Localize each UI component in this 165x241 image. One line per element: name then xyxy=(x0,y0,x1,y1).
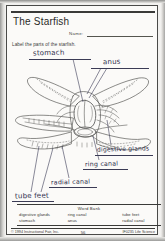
label-digestive-glands[interactable]: digestive glands xyxy=(97,144,150,152)
name-input-line[interactable] xyxy=(87,36,153,37)
label-rule-digestive-glands xyxy=(95,155,153,156)
word-bank-column-3: tube feet radial canal xyxy=(106,212,161,224)
scan-edge-top xyxy=(0,0,165,3)
word-bank-columns: digestive glands stomach ring canal anus… xyxy=(17,212,161,224)
label-rule-ring-canal xyxy=(83,169,128,170)
leader-line-radial-canal xyxy=(62,146,69,178)
footer-rule xyxy=(11,228,155,229)
scan-edge-left xyxy=(0,0,5,241)
label-rule-radial-canal xyxy=(49,187,97,188)
page-border: The Starfish Name: Label the parts of th… xyxy=(6,5,158,235)
worksheet-page: The Starfish Name: Label the parts of th… xyxy=(0,0,165,241)
word-bank-bottom-rule xyxy=(17,225,161,226)
leader-line-tube-feet xyxy=(31,146,39,192)
word-bank-title: Word Bank xyxy=(17,206,161,211)
scan-edge-right xyxy=(161,0,165,241)
word-bank-item: stomach xyxy=(19,218,58,224)
word-bank: Word Bank digestive glands stomach ring … xyxy=(17,204,161,226)
label-ring-canal[interactable]: ring canal xyxy=(85,160,118,168)
page-title: The Starfish xyxy=(13,16,69,27)
label-stomach[interactable]: stomach xyxy=(33,49,65,58)
label-rule-anus xyxy=(91,68,149,69)
word-bank-item: anus xyxy=(68,218,107,224)
starfish-diagram: stomach anus digestive glands ring canal… xyxy=(7,46,159,201)
word-bank-item: radial canal xyxy=(122,218,161,224)
word-bank-column-2: ring canal anus xyxy=(58,212,107,224)
label-tube-feet[interactable]: tube feet xyxy=(15,192,49,201)
word-bank-column-1: digestive glands stomach xyxy=(17,212,58,224)
header-rule xyxy=(11,11,155,13)
page-footer: © 1994 Instructional Fair, Inc. 56 IF023… xyxy=(11,230,155,234)
name-label: Name: xyxy=(69,31,83,36)
label-anus[interactable]: anus xyxy=(103,58,121,66)
page-number: 56 xyxy=(11,230,155,235)
label-rule-stomach xyxy=(29,59,91,60)
label-rule-tube-feet xyxy=(12,201,54,202)
scan-edge-bottom xyxy=(0,237,165,241)
label-radial-canal[interactable]: radial canal xyxy=(51,177,90,185)
